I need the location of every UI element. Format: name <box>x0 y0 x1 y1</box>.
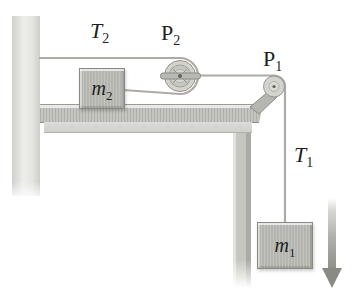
tension-t1-label: T1 <box>294 144 313 166</box>
pulley-p1-label: P1 <box>263 48 282 70</box>
pulley-p1 <box>250 76 285 114</box>
block-m2: m2 <box>79 68 125 109</box>
tension-t2-label: T2 <box>90 20 109 42</box>
block-m2-label: m2 <box>92 77 113 100</box>
block-m1-label: m1 <box>275 234 296 257</box>
pulley-p2-label: P2 <box>161 22 180 44</box>
down-arrow <box>322 198 342 288</box>
pulley-p2-hub <box>178 74 182 78</box>
down-arrow-head <box>322 268 342 288</box>
block-m1: m1 <box>257 222 313 269</box>
down-arrow-shaft <box>328 198 336 270</box>
physics-diagram: m2 m1 T2 P2 P1 T1 <box>0 0 359 297</box>
pulley-p1-hub <box>272 85 275 88</box>
